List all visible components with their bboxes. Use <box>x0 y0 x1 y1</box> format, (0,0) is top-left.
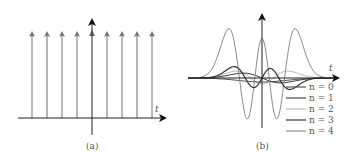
legend-label: n = 4 <box>309 126 334 136</box>
legend-label: n = 3 <box>309 115 334 125</box>
legend: n = 0n = 1n = 2n = 3n = 4 <box>286 82 334 136</box>
figure: t (a) t n = 0n = 1n = 2n = 3n = 4 (b) <box>0 0 348 161</box>
legend-label: n = 1 <box>309 93 334 103</box>
panel-a: t (a) <box>18 20 165 151</box>
legend-label: n = 2 <box>309 104 334 114</box>
t-axis-label-b: t <box>329 63 333 73</box>
caption-b: (b) <box>256 141 269 151</box>
legend-label: n = 0 <box>309 82 334 92</box>
caption-a: (a) <box>86 141 98 151</box>
panel-b: t n = 0n = 1n = 2n = 3n = 4 (b) <box>188 15 338 151</box>
t-axis-label-a: t <box>155 104 159 114</box>
